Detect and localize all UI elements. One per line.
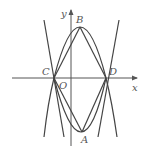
label-point-D: D [108,66,117,77]
segment-AD [82,78,106,132]
segment-CB [54,27,80,78]
parabola-downward [54,27,106,78]
label-x-axis: x [132,82,138,93]
label-point-C: C [42,66,50,77]
label-y-axis: y [60,8,67,19]
label-point-O: O [59,80,67,91]
segment-BD [80,27,106,78]
label-point-A: A [80,134,88,145]
geometry-diagram: y x B C O D A [0,0,145,154]
label-point-B: B [75,14,83,25]
parabola-downward-lower [44,78,54,137]
parabola-downward-lower-right [106,78,117,137]
